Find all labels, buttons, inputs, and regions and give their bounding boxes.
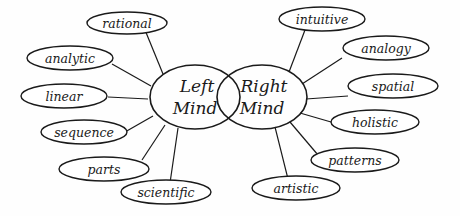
connector-sequence	[125, 116, 153, 132]
label-sequence: sequence	[41, 120, 127, 144]
svg-text:analytic: analytic	[45, 51, 95, 66]
label-analogy: analogy	[343, 36, 429, 60]
label-spatial: spatial	[348, 74, 438, 98]
svg-text:rational: rational	[102, 16, 151, 31]
diagram-svg: Left Mind Right Mind rational analytic l…	[0, 0, 460, 216]
svg-text:intuitive: intuitive	[296, 12, 349, 27]
connector-analytic	[112, 64, 151, 86]
connector-parts	[142, 125, 165, 160]
right-hub-line2: Mind	[239, 98, 285, 118]
svg-text:patterns: patterns	[328, 153, 381, 168]
label-linear: linear	[21, 84, 107, 108]
label-rational: rational	[87, 12, 167, 34]
svg-text:analogy: analogy	[361, 41, 411, 56]
connector-scientific	[170, 128, 178, 183]
connector-spatial	[306, 96, 348, 99]
connector-linear	[108, 97, 148, 99]
svg-text:parts: parts	[88, 162, 121, 177]
svg-text:artistic: artistic	[274, 181, 319, 196]
connector-rational	[145, 30, 163, 74]
left-hub-line2: Mind	[172, 98, 218, 118]
svg-text:spatial: spatial	[372, 79, 414, 94]
connector-intuitive	[289, 30, 305, 72]
left-mind-circle	[150, 65, 240, 129]
svg-text:holistic: holistic	[352, 115, 398, 130]
left-hub-line1: Left	[179, 76, 215, 96]
right-mind-hub: Right Mind	[217, 65, 307, 129]
svg-text:sequence: sequence	[54, 125, 114, 140]
connector-analogy	[302, 58, 342, 84]
connector-holistic	[300, 113, 331, 122]
label-intuitive: intuitive	[279, 7, 365, 31]
right-mind-circle	[217, 65, 307, 129]
svg-text:scientific: scientific	[137, 185, 194, 200]
label-artistic: artistic	[252, 176, 340, 200]
svg-text:linear: linear	[46, 89, 84, 104]
label-parts: parts	[59, 157, 149, 181]
connector-patterns	[290, 122, 318, 155]
label-scientific: scientific	[121, 180, 211, 204]
connector-artistic	[275, 127, 288, 179]
label-analytic: analytic	[27, 46, 113, 70]
left-mind-hub: Left Mind	[150, 65, 240, 129]
brain-hemispheres-diagram: Left Mind Right Mind rational analytic l…	[0, 0, 460, 216]
right-hub-line1: Right	[240, 76, 288, 96]
label-holistic: holistic	[331, 110, 419, 134]
label-patterns: patterns	[311, 148, 399, 172]
